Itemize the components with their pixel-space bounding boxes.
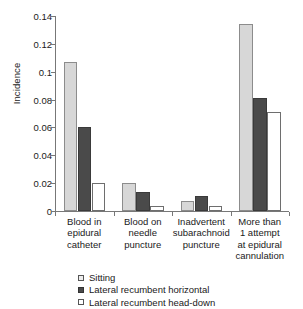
bar <box>136 192 150 211</box>
bar-chart: Incidence 00.020.040.060.080.10.120.14 B… <box>0 0 303 309</box>
y-tick-label: 0.06 <box>0 122 52 133</box>
bar <box>253 98 267 211</box>
y-tick-label: 0.12 <box>0 38 52 49</box>
bar <box>239 24 253 211</box>
y-tick-label: 0.08 <box>0 94 52 105</box>
category-label: More than 1 attempt at epidural cannulat… <box>231 216 290 262</box>
chart-legend: SittingLateral recumbent horizontalLater… <box>78 272 303 309</box>
legend-label: Lateral recumbent horizontal <box>89 284 209 295</box>
bar-group <box>231 16 290 211</box>
legend-item: Lateral recumbent horizontal <box>78 284 303 296</box>
category-label: Blood in epidural catheter <box>55 216 114 250</box>
legend-swatch-icon <box>78 299 84 305</box>
category-label: Blood on needle puncture <box>114 216 173 250</box>
bar <box>92 183 106 211</box>
x-tick-mark <box>289 212 290 216</box>
category-label: Inadvertent subarachnoid puncture <box>172 216 231 250</box>
legend-swatch-icon <box>78 275 84 281</box>
legend-item: Lateral recumbent head-down <box>78 296 303 308</box>
legend-swatch-icon <box>78 287 84 293</box>
y-tick-label: 0.1 <box>0 66 52 77</box>
bar <box>209 206 223 211</box>
bar-group <box>114 16 173 211</box>
legend-item: Sitting <box>78 272 303 284</box>
legend-label: Sitting <box>89 272 115 283</box>
y-tick-label: 0.14 <box>0 11 52 22</box>
bar-group <box>172 16 231 211</box>
bar-group <box>55 16 114 211</box>
bar <box>150 206 164 211</box>
bar <box>64 62 78 211</box>
bar <box>181 201 195 211</box>
bar <box>122 183 136 211</box>
y-tick-label: 0.02 <box>0 178 52 189</box>
y-tick-label: 0 <box>0 206 52 217</box>
legend-label: Lateral recumbent head-down <box>89 297 215 308</box>
plot-area <box>55 16 289 211</box>
bar <box>195 196 209 211</box>
y-tick-label: 0.04 <box>0 150 52 161</box>
x-axis-category-labels: Blood in epidural catheterBlood on needl… <box>55 216 289 274</box>
y-axis-title: Incidence <box>11 44 22 124</box>
bar <box>267 112 281 211</box>
bar <box>78 127 92 211</box>
